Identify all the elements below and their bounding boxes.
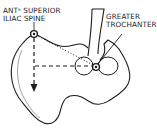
asis-label: ANTᵃ SUPERIOR ILIAC SPINE	[3, 7, 61, 23]
asis-marker-dot	[33, 33, 35, 35]
pelvis-outline	[11, 34, 129, 124]
arrow-down-icon	[31, 84, 38, 92]
femur-shaft	[88, 9, 104, 56]
iliac-crest	[34, 34, 88, 48]
trochanter-marker-dot	[95, 66, 97, 68]
dotted-line-asis-to-trochanter	[36, 35, 95, 66]
diagram-canvas: ANTᵃ SUPERIOR ILIAC SPINE GREATER TROCHA…	[0, 0, 157, 133]
asis-label-line2: ILIAC SPINE	[3, 15, 61, 23]
gt-label-line2: TROCHANTER	[106, 21, 157, 29]
greater-trochanter-label: GREATER TROCHANTER	[106, 13, 157, 29]
